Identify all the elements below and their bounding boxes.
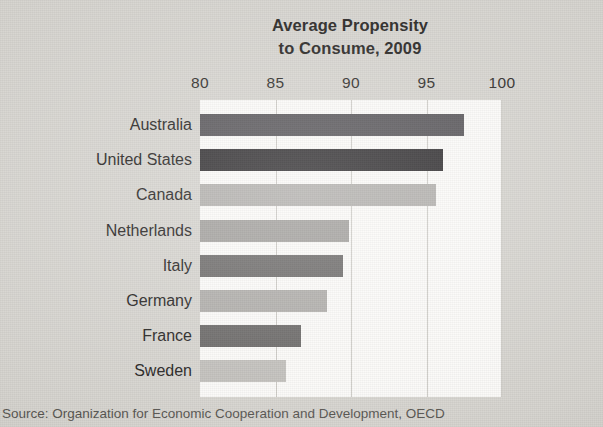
chart-figure: Average Propensity to Consume, 2009 8085… (0, 0, 603, 427)
category-label-france: France (0, 325, 192, 347)
plot-area (200, 100, 502, 397)
category-label-australia: Australia (0, 114, 192, 136)
category-label-sweden: Sweden (0, 360, 192, 382)
chart-title: Average Propensity to Consume, 2009 (195, 14, 505, 60)
bar-france (200, 325, 301, 347)
category-label-netherlands: Netherlands (0, 220, 192, 242)
gridline-100 (501, 100, 502, 397)
x-tick-label-90: 90 (342, 74, 360, 92)
x-tick-label-95: 95 (418, 74, 436, 92)
chart-title-line-2: to Consume, 2009 (195, 37, 505, 60)
bar-italy (200, 255, 343, 277)
x-tick-label-85: 85 (267, 74, 285, 92)
gridline-85 (276, 100, 277, 397)
source-note: Source: Organization for Economic Cooper… (2, 406, 445, 421)
category-label-canada: Canada (0, 184, 192, 206)
bar-germany (200, 290, 327, 312)
category-label-germany: Germany (0, 290, 192, 312)
x-tick-label-80: 80 (191, 74, 209, 92)
bar-netherlands (200, 220, 349, 242)
x-tick-label-100: 100 (489, 74, 516, 92)
x-axis-tick-labels: 80859095100 (0, 74, 603, 96)
category-label-italy: Italy (0, 255, 192, 277)
y-axis-category-labels: AustraliaUnited StatesCanadaNetherlandsI… (0, 100, 192, 397)
category-label-united-states: United States (0, 149, 192, 171)
chart-title-line-1: Average Propensity (195, 14, 505, 37)
bar-united-states (200, 149, 443, 171)
bar-australia (200, 114, 464, 136)
bar-canada (200, 184, 436, 206)
gridline-90 (351, 100, 352, 397)
bar-sweden (200, 360, 286, 382)
gridline-95 (427, 100, 428, 397)
